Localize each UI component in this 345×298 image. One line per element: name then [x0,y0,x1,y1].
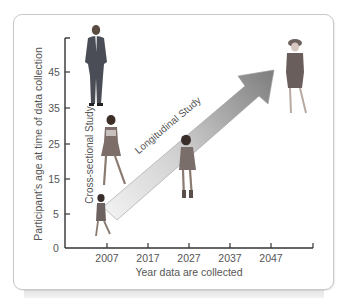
x-axis-title: Year data are collected [135,266,242,278]
y-tick-5: 5 [53,208,59,220]
x-tick-2047: 2047 [259,252,283,264]
y-tick-35: 35 [48,102,60,114]
x-tick-2037: 2037 [218,252,242,264]
young-woman-figure [101,115,125,185]
y-axis-title: Participant's age at time of data collec… [32,47,44,241]
x-tick-2007: 2007 [95,252,119,264]
child-figure [96,194,110,236]
woman-in-hat-figure [286,39,306,113]
y-tick-45: 45 [48,66,60,78]
y-axis [65,38,70,248]
longitudinal-arrow [103,70,274,220]
y-tick-0: 0 [53,242,59,254]
y-tick-25: 25 [48,138,60,150]
cross-sectional-study-label: Cross-sectional Study [84,106,95,203]
study-design-diagram: 45 35 25 15 5 0 2007 2017 2027 2037 2047… [0,0,345,298]
x-tick-2027: 2027 [177,252,201,264]
man-in-suit-figure [85,25,107,106]
y-tick-15: 15 [48,173,60,185]
x-tick-2017: 2017 [136,252,160,264]
x-axis [65,243,313,248]
